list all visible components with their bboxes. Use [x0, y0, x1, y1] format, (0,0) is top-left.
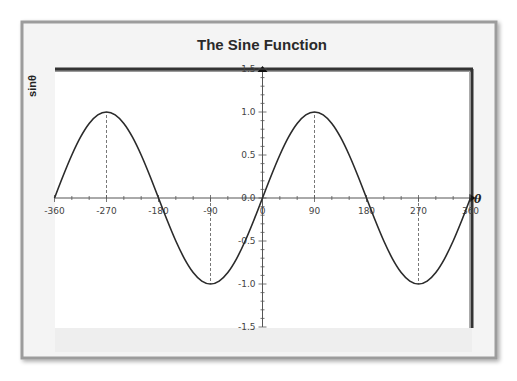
x-tick-label: -180 [148, 206, 169, 216]
y-tick-label: 1.0 [241, 107, 256, 117]
x-axis-label: θ [474, 193, 482, 206]
chart-title: The Sine Function [197, 36, 327, 53]
plot-bottom-band [55, 328, 472, 352]
y-tick-label: -1.0 [238, 279, 256, 289]
y-tick-label: 0.0 [241, 193, 256, 203]
x-tick-label: -270 [96, 206, 117, 216]
sine-chart: The Sine Function sinθ θ -360-270-180-90… [0, 0, 517, 381]
x-tick-label: 0 [260, 206, 266, 216]
x-tick-label: -90 [203, 206, 218, 216]
x-tick-label: 270 [410, 206, 427, 216]
x-tick-label: 90 [309, 206, 321, 216]
y-axis-label: sinθ [26, 75, 38, 97]
y-tick-label: 0.5 [241, 150, 255, 160]
x-tick-label: -360 [44, 206, 65, 216]
y-tick-label: -1.5 [238, 322, 256, 332]
y-tick-label: 1.5 [241, 64, 255, 74]
